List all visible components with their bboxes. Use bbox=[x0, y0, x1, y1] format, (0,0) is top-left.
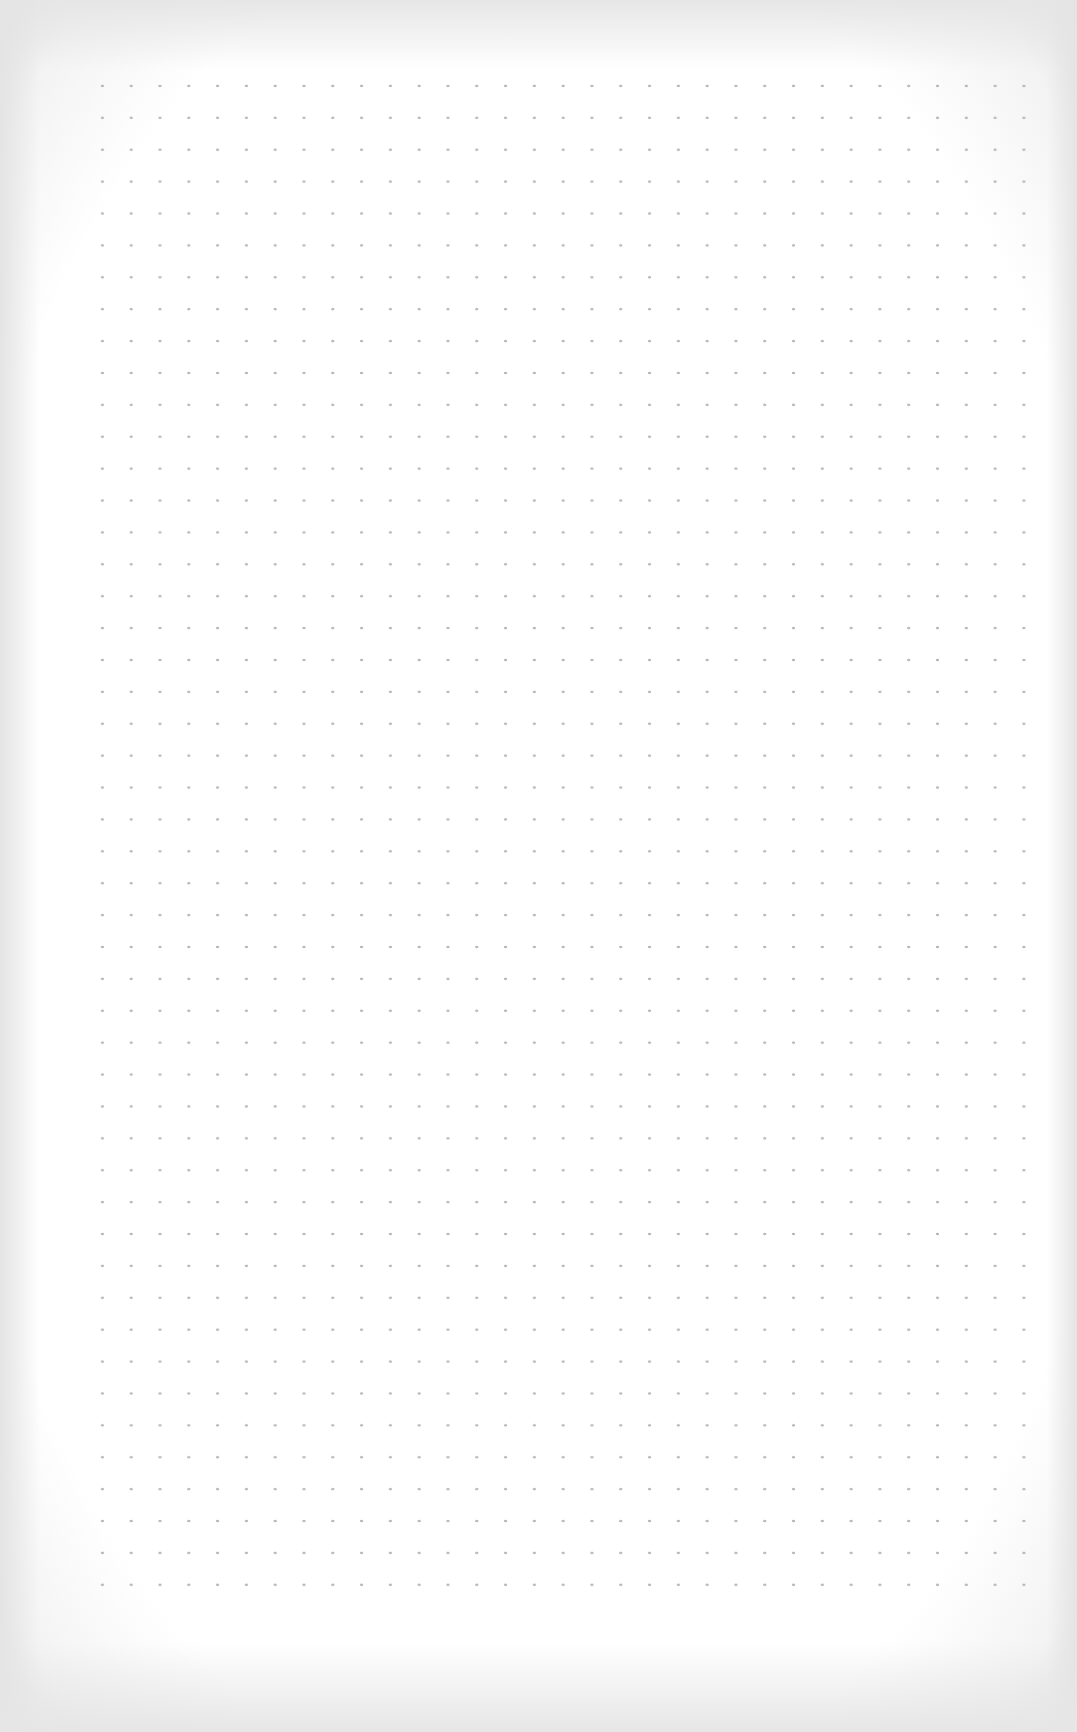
paper-edge-shadow-bottom bbox=[0, 1642, 1077, 1732]
paper-sheet bbox=[0, 0, 1077, 1732]
dot-grid bbox=[88, 70, 1048, 1612]
paper-edge-shadow-right bbox=[1047, 0, 1077, 1732]
paper-edge-shadow-top bbox=[0, 0, 1077, 70]
paper-edge-shadow-left bbox=[0, 0, 40, 1732]
